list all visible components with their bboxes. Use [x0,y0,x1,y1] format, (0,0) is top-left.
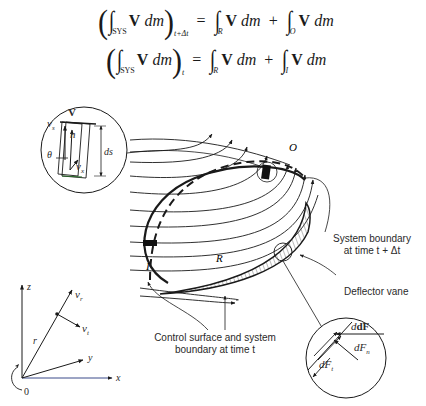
inset-label-ds: ds [104,146,113,158]
axis-label-z: z [27,281,31,293]
region-o-label: O [289,141,297,153]
streamline [130,168,296,227]
deflector-vane-label: Deflector vane [344,286,424,298]
streamline [130,134,212,152]
inset-label-n: n [70,128,76,140]
streamline [140,296,235,303]
control-surface-label: Control surface and system boundary at t… [140,332,290,356]
force-inset [306,318,386,398]
streamlines [130,134,318,303]
vector-label-r: r [33,335,37,347]
deflector-leader [300,255,336,275]
vt-arrow [57,314,80,327]
r-vector [22,290,72,378]
force-label-dft: dFt [319,358,333,375]
force-label-dfn: dFn [354,341,370,358]
inset-label-theta: θ [47,149,52,161]
coordinate-axes [12,285,112,390]
system-boundary-label: System boundary at time t + Δt [318,233,426,257]
force-inset-leader [283,261,327,336]
inset-label-v: V [68,106,76,118]
force-label-df: ddF [351,320,369,332]
velocity-label-vt: vt [82,322,89,339]
inset-label-vs: vs [47,117,55,134]
deflector-vane [160,203,310,294]
element-inflow-block [143,240,157,246]
region-r-label: R [215,252,223,264]
system-boundary-dashed [150,161,305,280]
velocity-label-vr: vr [75,288,83,305]
force-inset-circle [306,318,386,398]
origin-label: 0 [24,386,29,398]
axis-label-y: y [88,352,92,364]
control-surface-boundary [144,166,305,283]
axis-label-x: x [116,372,120,384]
rotation-arc [12,367,22,390]
inset-label-vx: vx [76,160,84,177]
